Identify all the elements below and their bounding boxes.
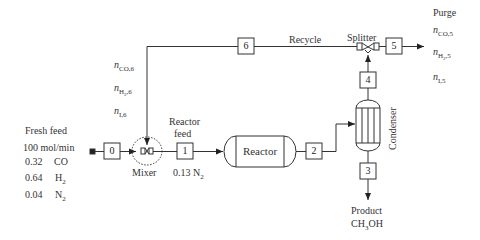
recycle-var-co: nCO,6 — [114, 60, 134, 73]
splitter-label: Splitter — [347, 33, 376, 43]
fresh-feed-n2-fraction: 0.04 — [25, 190, 43, 200]
recycle-var-inert: nI,6 — [114, 106, 127, 119]
splitter-valve — [357, 43, 379, 53]
purge-label: Purge — [433, 8, 456, 18]
stream-label-6: 6 — [238, 41, 254, 51]
purge-var-inert: nI,5 — [433, 72, 446, 85]
purge-var-h2: nH2,5 — [433, 47, 451, 61]
feed-source-marker — [90, 149, 95, 154]
process-flow-diagram — [0, 0, 480, 240]
purge-var-co: nCO,5 — [433, 25, 453, 38]
condenser-label: Condenser — [388, 107, 398, 150]
fresh-feed-co-species: CO — [54, 157, 68, 167]
fresh-feed-title: Fresh feed — [25, 126, 67, 136]
stream-label-2: 2 — [306, 146, 322, 156]
fresh-feed-rate: 100 mol/min — [23, 143, 74, 153]
mixer-label: Mixer — [132, 168, 156, 178]
fresh-feed-n2-species: N2 — [55, 190, 66, 203]
fresh-feed-co-fraction: 0.32 — [25, 157, 43, 167]
stream-label-5: 5 — [386, 41, 402, 51]
reactor-feed-n2: 0.13 N2 — [173, 168, 204, 181]
reactor-label: Reactor — [234, 146, 286, 157]
reactor-feed-label-1: Reactor — [169, 117, 200, 127]
stream-label-1: 1 — [177, 146, 193, 156]
stream-label-0: 0 — [104, 146, 120, 156]
fresh-feed-h2-fraction: 0.64 — [25, 173, 43, 183]
stream-label-3: 3 — [360, 166, 376, 176]
fresh-feed-h2-species: H2 — [55, 173, 66, 186]
stream-label-4: 4 — [360, 75, 376, 85]
recycle-label: Recycle — [289, 35, 321, 45]
product-formula: CH3OH — [351, 219, 383, 232]
recycle-var-h2: nH2,6 — [114, 83, 132, 97]
reactor-feed-label-2: feed — [174, 129, 191, 139]
product-label: Product — [351, 206, 382, 216]
